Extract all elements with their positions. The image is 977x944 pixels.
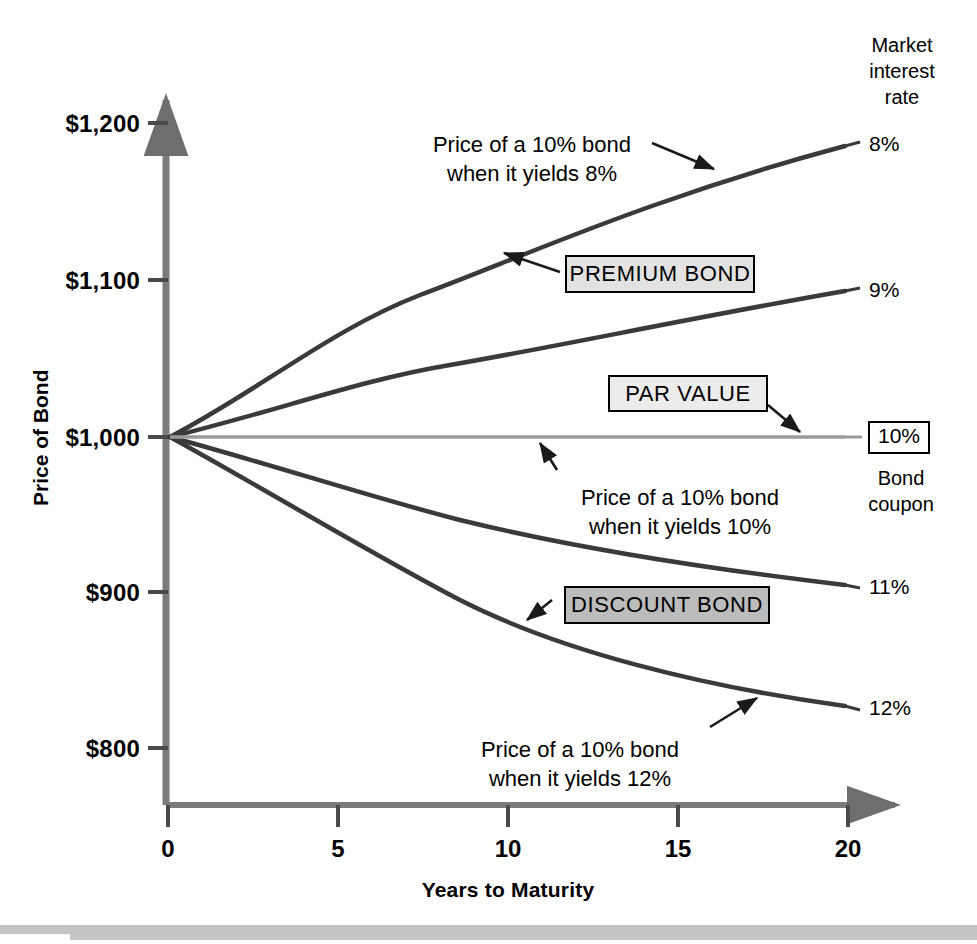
x-tick-label-0: 0: [138, 834, 198, 863]
y-tick-label-900: $900: [36, 578, 140, 607]
page-footer-notch: [0, 934, 70, 944]
y-tick-label-1200: $1,200: [36, 109, 140, 138]
rate-label-8-percent: 8%: [869, 131, 899, 157]
rate-label-9-percent: 9%: [869, 277, 899, 303]
x-axis-title: Years to Maturity: [388, 877, 628, 903]
x-tick-label-5: 5: [308, 834, 368, 863]
leader-yield8: [652, 143, 714, 169]
page-footer-band: [0, 925, 977, 940]
callout-yield12-line2: when it yields 12%: [455, 765, 705, 794]
y-tick-label-800: $800: [36, 734, 140, 763]
callout-yield8-line1: Price of a 10% bond: [407, 131, 657, 160]
legend-heading-line1: Market: [842, 32, 962, 58]
bond-coupon-caption-line2: coupon: [845, 491, 957, 517]
x-axis-ticks: [168, 805, 848, 827]
legend-heading-line3: rate: [842, 84, 962, 110]
leader-discount-tag: [527, 600, 552, 620]
bond-coupon-caption-line1: Bond: [856, 465, 946, 491]
rate-label-stubs: [845, 142, 862, 710]
par-value-tag: PAR VALUE: [608, 375, 768, 412]
leader-par-tag: [768, 405, 800, 432]
legend-heading-line2: interest: [842, 58, 962, 84]
leader-premium-tag: [504, 253, 560, 272]
discount-bond-tag: DISCOUNT BOND: [564, 586, 770, 624]
callout-yield10-line2: when it yields 10%: [555, 513, 805, 542]
axis-lines: [166, 100, 895, 805]
x-tick-label-20: 20: [818, 834, 878, 863]
x-tick-label-15: 15: [648, 834, 708, 863]
x-tick-label-10: 10: [478, 834, 538, 863]
callout-yield10-line1: Price of a 10% bond: [555, 484, 805, 513]
premium-bond-tag: PREMIUM BOND: [565, 255, 755, 293]
bond-price-chart-figure: $1,200 $1,100 $1,000 $900 $800 Price of …: [0, 0, 977, 944]
y-axis-title: Price of Bond: [28, 369, 54, 506]
callout-yield8-line2: when it yields 8%: [407, 160, 657, 189]
rate-label-12-percent: 12%: [869, 695, 911, 721]
leader-yield10: [540, 443, 557, 470]
callout-yield12-line1: Price of a 10% bond: [455, 736, 705, 765]
curve-9-percent: [170, 291, 845, 437]
bond-coupon-value-box: 10%: [868, 421, 930, 454]
y-tick-label-1100: $1,100: [36, 266, 140, 295]
rate-label-11-percent: 11%: [869, 574, 909, 600]
leader-yield12: [710, 698, 757, 727]
